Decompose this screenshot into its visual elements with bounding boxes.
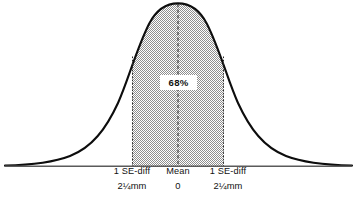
x-tick-right: 1 SE-diff 2¼mm	[190, 167, 266, 191]
x-tick-right-label: 1 SE-diff	[190, 167, 266, 176]
normal-distribution-figure: 68% 1 SE-diff 2¼mm Mean 0 1 SE-diff 2¼mm	[0, 0, 358, 197]
x-tick-right-sublabel: 2¼mm	[190, 181, 266, 190]
area-percent-badge: 68%	[160, 75, 197, 90]
area-percent-label: 68%	[169, 78, 189, 88]
